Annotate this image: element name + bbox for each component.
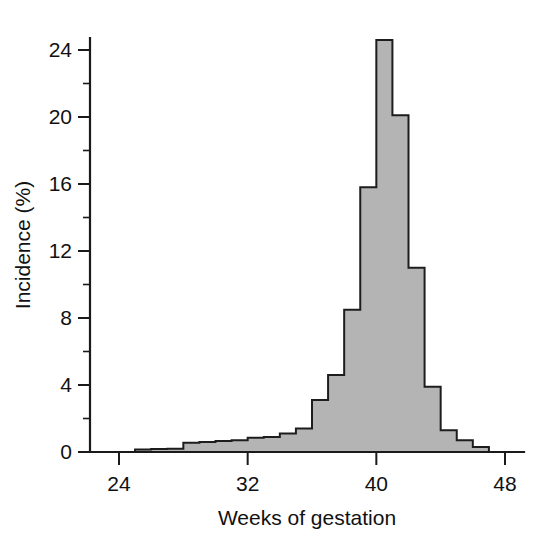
x-tick-label: 40 bbox=[365, 472, 388, 495]
y-tick-label: 0 bbox=[60, 440, 72, 463]
x-tick-label: 32 bbox=[236, 472, 259, 495]
y-tick-label: 16 bbox=[49, 172, 72, 195]
x-tick-label: 48 bbox=[493, 472, 516, 495]
chart-background bbox=[0, 0, 559, 543]
x-tick-label: 24 bbox=[107, 472, 131, 495]
y-tick-label: 12 bbox=[49, 239, 72, 262]
y-axis-title: Incidence (%) bbox=[11, 181, 34, 309]
y-tick-label: 4 bbox=[60, 373, 72, 396]
gestation-incidence-histogram: 04812162024 24324048 Incidence (%) Weeks… bbox=[0, 0, 559, 543]
y-tick-label: 20 bbox=[49, 105, 72, 128]
histogram-figure: 04812162024 24324048 Incidence (%) Weeks… bbox=[0, 0, 559, 543]
y-tick-label: 8 bbox=[60, 306, 72, 329]
x-axis-title: Weeks of gestation bbox=[218, 506, 396, 529]
y-tick-label: 24 bbox=[49, 38, 73, 61]
